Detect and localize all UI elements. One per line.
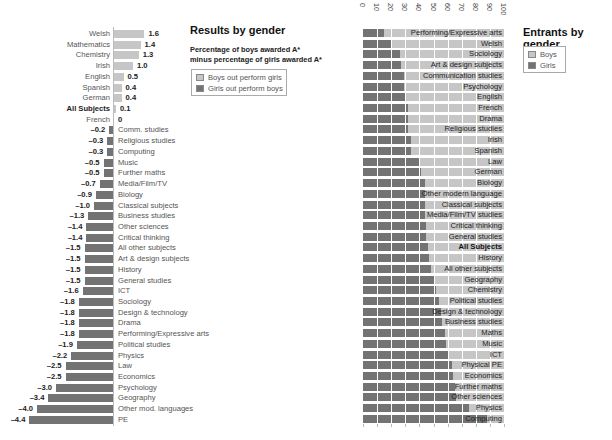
category-label: General studies [449, 232, 502, 242]
bar [104, 169, 114, 177]
bar [94, 202, 113, 210]
category-label: English [85, 72, 110, 82]
gridline [405, 27, 406, 425]
value-label: 1.3 [143, 50, 154, 60]
bar [77, 341, 113, 349]
legend-label: Boys [540, 50, 557, 59]
value-label: –1.5 [66, 254, 81, 264]
category-label: Computing [465, 414, 502, 424]
gridline [434, 27, 435, 425]
category-label: Political studies [450, 296, 502, 306]
value-label: 0 [118, 115, 122, 125]
category-label: Art & design subjects [118, 254, 189, 264]
tick-mark [391, 424, 392, 427]
category-label: Religious studies [445, 124, 502, 134]
girls-segment [363, 190, 425, 198]
bar [104, 159, 114, 167]
category-label: Performing/Expressive arts [118, 329, 209, 339]
tick-mark [490, 424, 491, 427]
value-label: –1.0 [75, 201, 90, 211]
bar [85, 266, 114, 274]
x-tick-label: 90 [485, 3, 494, 11]
girls-segment [363, 29, 384, 37]
category-label: Art & design subjects [431, 60, 502, 70]
tick-mark [504, 424, 505, 427]
girls-segment [363, 276, 435, 284]
value-label: –1.8 [60, 329, 75, 339]
x-tick-label: 60 [443, 3, 452, 11]
category-label: Other sciences [451, 392, 502, 402]
bar [114, 51, 139, 59]
legend-item-boys: Boys [524, 49, 565, 60]
category-label: Communication studies [423, 71, 502, 81]
value-label: 1.0 [137, 61, 148, 71]
category-label: History [478, 253, 502, 263]
girls-segment [363, 147, 411, 155]
bar [107, 137, 113, 145]
category-label: Music [482, 339, 502, 349]
category-label: Spanish [83, 83, 110, 93]
gridline [448, 27, 449, 425]
bar [71, 352, 113, 360]
category-label: Irish [488, 135, 502, 145]
category-label: Physics [118, 351, 144, 361]
girls-segment [363, 136, 411, 144]
category-label: General studies [118, 276, 171, 286]
category-label: Physics [476, 403, 502, 413]
value-label: –1.3 [70, 211, 85, 221]
category-label: Other mod. languages [118, 404, 193, 414]
category-label: Law [118, 361, 132, 371]
value-label: –1.4 [68, 233, 83, 243]
bar [85, 244, 114, 252]
bar [114, 84, 122, 92]
category-label: Critical thinking [118, 233, 170, 243]
category-label: Sociology [469, 49, 502, 59]
bar [114, 94, 122, 102]
category-label: Computing [118, 147, 155, 157]
bar [114, 30, 144, 38]
legend-label: Boys out perform girls [208, 73, 282, 82]
value-label: 0.4 [126, 83, 137, 93]
girls-segment [363, 115, 408, 123]
x-tick-label: 80 [471, 3, 480, 11]
bar [29, 416, 113, 424]
value-label: 0.1 [120, 104, 131, 114]
legend-label: Girls out perform boys [208, 84, 283, 93]
category-label: Classical subjects [118, 201, 178, 211]
girls-segment [363, 318, 442, 326]
category-label: Biology [477, 178, 502, 188]
value-label: 0.5 [128, 72, 139, 82]
category-label: PE [118, 415, 128, 425]
tick-mark [363, 424, 364, 427]
category-label: Spanish [475, 146, 502, 156]
category-label: Religious studies [118, 136, 175, 146]
girls-segment [363, 93, 405, 101]
girls-segment [363, 211, 425, 219]
entrants-legend: Boys Girls [523, 46, 566, 73]
category-label: Drama [118, 318, 141, 328]
bar [79, 309, 113, 317]
category-label: Further maths [455, 382, 502, 392]
category-label: Biology [118, 190, 143, 200]
value-label: –1.9 [58, 340, 73, 350]
category-label: All other subjects [118, 243, 176, 253]
category-label: Psychology [118, 383, 157, 393]
category-label: Physical PE [461, 360, 502, 370]
bar [48, 394, 113, 402]
category-label: Drama [479, 114, 502, 124]
category-label: Chemistry [76, 50, 110, 60]
results-subtitle-line1: Percentage of boys awarded A* [190, 45, 300, 55]
category-label: Welsh [481, 39, 502, 49]
category-label: All other subjects [444, 264, 502, 274]
value-label: –1.6 [64, 286, 79, 296]
value-label: –0.5 [85, 168, 100, 178]
tick-mark [462, 424, 463, 427]
value-label: 1.4 [145, 40, 156, 50]
x-tick-label: 100 [499, 3, 508, 15]
category-label: Chemistry [468, 285, 502, 295]
category-label: Media/Film/TV studies [427, 210, 502, 220]
bar [86, 234, 113, 242]
value-label: –1.8 [60, 297, 75, 307]
category-label: French [478, 103, 502, 113]
category-label: Welsh [89, 29, 110, 39]
